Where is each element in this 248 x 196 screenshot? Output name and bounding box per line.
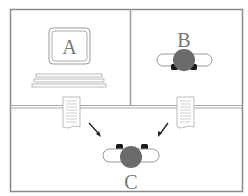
diagram-canvas: A B [0, 0, 248, 196]
label-c: C [124, 171, 137, 193]
document-icon-b [177, 97, 194, 128]
label-a: A [62, 36, 77, 58]
label-b: B [177, 29, 190, 51]
document-icon-a [63, 97, 80, 128]
